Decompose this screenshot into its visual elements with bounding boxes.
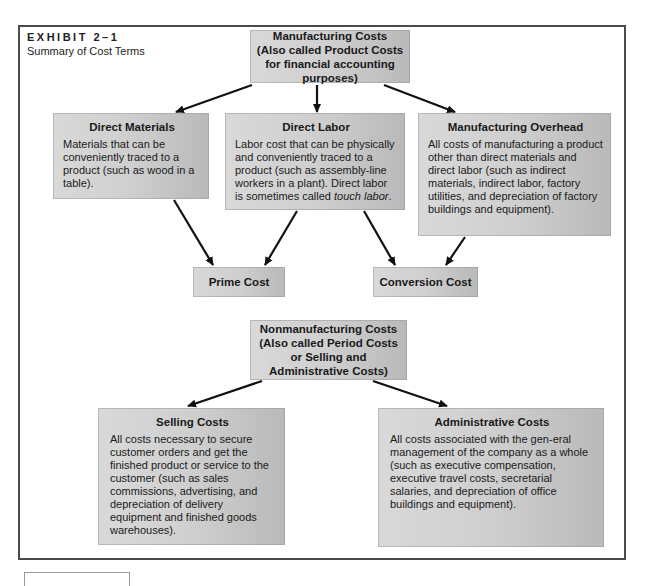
direct-materials-title: Direct Materials — [63, 121, 201, 134]
manufacturing-costs-line3: for financial accounting purposes) — [250, 57, 410, 85]
direct-labor-touch-labor: touch labor — [334, 190, 388, 202]
prime-cost-title: Prime Cost — [209, 275, 270, 289]
direct-labor-box: Direct Labor Labor cost that can be phys… — [225, 113, 405, 210]
selling-costs-body: All costs necessary to secure customer o… — [110, 433, 275, 537]
manufacturing-overhead-title: Manufacturing Overhead — [428, 121, 603, 134]
direct-materials-body: Materials that can be conveniently trace… — [63, 138, 201, 190]
manufacturing-costs-line2: (Also called Product Costs — [250, 43, 410, 57]
administrative-costs-box: Administrative Costs All costs associate… — [378, 408, 604, 547]
selling-costs-box: Selling Costs All costs necessary to sec… — [98, 408, 285, 545]
direct-labor-body: Labor cost that can be physically and co… — [235, 138, 397, 203]
conversion-cost-title: Conversion Cost — [379, 275, 471, 289]
manufacturing-costs-box: Manufacturing Costs (Also called Product… — [250, 30, 410, 83]
manufacturing-costs-line1: Manufacturing Costs — [250, 29, 410, 43]
nonmanufacturing-costs-box: Nonmanufacturing Costs (Also called Peri… — [250, 320, 407, 380]
nonmanufacturing-line2: (Also called Period Costs — [259, 336, 398, 350]
administrative-costs-title: Administrative Costs — [390, 416, 594, 429]
conversion-cost-box: Conversion Cost — [373, 267, 478, 297]
direct-labor-title: Direct Labor — [235, 121, 397, 134]
manufacturing-overhead-box: Manufacturing Overhead All costs of manu… — [418, 113, 611, 236]
nonmanufacturing-line3: or Selling and — [259, 350, 398, 364]
direct-materials-box: Direct Materials Materials that can be c… — [53, 113, 209, 199]
direct-labor-body-end: . — [388, 190, 391, 202]
prime-cost-box: Prime Cost — [193, 267, 285, 297]
page-tab-outline — [24, 572, 130, 586]
administrative-costs-body: All costs associated with the gen-eral m… — [390, 433, 594, 511]
exhibit-subtitle: Summary of Cost Terms — [27, 45, 145, 57]
selling-costs-title: Selling Costs — [110, 416, 275, 429]
manufacturing-overhead-body: All costs of manufacturing a product oth… — [428, 138, 603, 216]
exhibit-label: EXHIBIT 2–1 — [27, 31, 119, 43]
nonmanufacturing-line1: Nonmanufacturing Costs — [259, 322, 398, 336]
nonmanufacturing-line4: Administrative Costs) — [259, 364, 398, 378]
